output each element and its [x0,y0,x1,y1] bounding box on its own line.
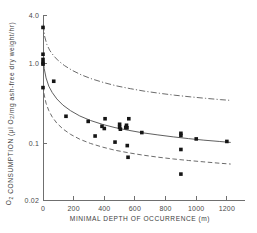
data-point-marker [125,144,129,148]
y-axis: 4.01.00.10.02 [25,12,47,204]
data-point-marker [127,117,131,121]
data-point-marker [41,52,45,56]
data-point-marker [194,137,198,141]
x-tick-label: 400 [98,205,110,212]
data-point-marker [41,62,45,66]
x-tick-label: 1200 [219,205,235,212]
curve-regression-line [43,59,231,143]
x-tick-label: 1000 [188,205,204,212]
data-point-marker [125,126,129,130]
curve-upper-confidence-limit [43,24,229,100]
y-tick-label: 0.02 [25,197,39,204]
axis-frame [43,15,245,200]
curves-group [43,24,231,164]
y-tick-label: 1.0 [29,60,39,67]
data-point-marker [126,155,130,159]
data-point-marker [119,127,123,131]
x-tick-label: 200 [68,205,80,212]
data-point-marker [179,148,183,152]
data-point-marker [41,26,45,30]
x-tick-label: 800 [159,205,171,212]
x-tick-label: 0 [41,205,45,212]
y-tick-label: 0.1 [29,140,39,147]
data-point-marker [225,140,229,144]
y-tick-label: 4.0 [29,12,39,19]
data-points-group [41,26,228,176]
data-point-marker [64,114,68,118]
chart-figure: 0200400600800100012004.01.00.10.02MINIMA… [0,0,257,233]
x-axis-title: MINIMAL DEPTH OF OCCURRENCE (m) [70,215,210,223]
data-point-marker [52,79,56,83]
data-point-marker [179,134,183,138]
data-point-marker [102,127,106,131]
scatter-plot: 0200400600800100012004.01.00.10.02MINIMA… [0,0,257,233]
data-point-marker [179,172,183,176]
data-point-marker [86,120,90,124]
axes-group [43,15,245,200]
data-point-marker [103,117,107,121]
data-point-marker [41,86,45,90]
data-point-marker [140,131,144,135]
data-point-marker [41,58,45,62]
data-point-marker [113,140,117,144]
x-axis: 020040060080010001200 [41,196,235,212]
x-tick-label: 600 [129,205,141,212]
y-axis-title: O2 CONSUMPTION (μl O2/mg ash-free dry we… [5,22,16,205]
data-point-marker [118,122,122,126]
data-point-marker [93,134,97,138]
